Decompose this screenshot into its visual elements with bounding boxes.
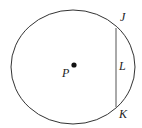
label-k: K <box>118 107 128 121</box>
circle-diagram: P J L K <box>0 0 142 128</box>
label-l: L <box>118 59 126 73</box>
center-point <box>71 62 76 67</box>
label-j: J <box>120 10 126 24</box>
label-p: P <box>61 66 70 80</box>
